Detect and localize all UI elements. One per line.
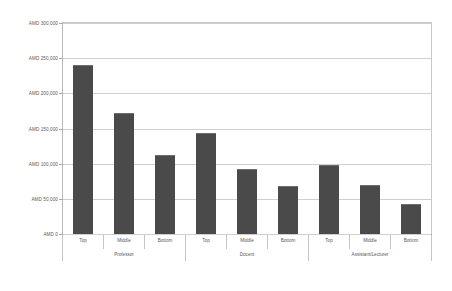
bar[interactable] xyxy=(319,165,339,234)
x-axis-groups: ProfessorDocentAssistant/Lecturer xyxy=(62,249,432,265)
x-axis-category-cell: Bottom xyxy=(391,235,432,249)
x-axis-category-cell: Bottom xyxy=(268,235,309,249)
y-axis-tick-label: AMD 200,000 xyxy=(29,91,63,96)
x-axis-group-cell: Docent xyxy=(186,249,309,261)
bar-slot xyxy=(390,23,431,234)
x-axis-category-label: Bottom xyxy=(268,238,308,243)
x-axis-category-label: Top xyxy=(63,238,103,243)
x-axis-category-cell: Middle xyxy=(350,235,391,249)
bar-series xyxy=(63,23,431,234)
bar[interactable] xyxy=(196,133,216,234)
y-axis-tick-label: AMD 0 xyxy=(43,232,63,237)
bar[interactable] xyxy=(73,65,93,234)
bar[interactable] xyxy=(278,186,298,234)
y-axis-tick-label: AMD 300,000 xyxy=(29,21,63,26)
y-axis-tick-label: AMD 150,000 xyxy=(29,126,63,131)
x-axis-category-cell: Top xyxy=(62,235,104,249)
x-axis-group-label: Docent xyxy=(186,252,308,257)
bar[interactable] xyxy=(155,155,175,234)
x-axis-category-label: Top xyxy=(309,238,349,243)
plot-area: AMD 300,000AMD 250,000AMD 200,000AMD 150… xyxy=(62,22,432,235)
bar-slot xyxy=(267,23,308,234)
x-axis-group-cell: Assistant/Lecturer xyxy=(309,249,432,261)
x-axis-category-label: Bottom xyxy=(391,238,431,243)
x-axis-category-cell: Middle xyxy=(104,235,145,249)
x-axis-group-label: Assistant/Lecturer xyxy=(309,252,431,257)
bar[interactable] xyxy=(237,169,257,234)
x-axis-category-label: Middle xyxy=(350,238,390,243)
bar-slot xyxy=(308,23,349,234)
x-axis-category-cell: Middle xyxy=(227,235,268,249)
bar-slot xyxy=(349,23,390,234)
x-axis-group-cell: Professor xyxy=(62,249,186,261)
x-axis-category-label: Middle xyxy=(227,238,267,243)
x-axis-category-label: Bottom xyxy=(145,238,185,243)
bar-slot xyxy=(145,23,186,234)
x-axis-category-cell: Top xyxy=(186,235,227,249)
bar-slot xyxy=(63,23,104,234)
y-axis-tick-label: AMD 100,000 xyxy=(29,161,63,166)
bar-slot xyxy=(104,23,145,234)
x-axis-category-label: Middle xyxy=(104,238,144,243)
x-axis-category-cell: Bottom xyxy=(145,235,186,249)
bar-chart: AMD 300,000AMD 250,000AMD 200,000AMD 150… xyxy=(0,0,452,291)
bar[interactable] xyxy=(360,185,380,234)
x-axis-category-label: Top xyxy=(186,238,226,243)
bar[interactable] xyxy=(401,204,421,234)
bar-slot xyxy=(186,23,227,234)
y-axis-tick-label: AMD 50,000 xyxy=(31,196,63,201)
x-axis-category-cell: Top xyxy=(309,235,350,249)
x-axis-group-label: Professor xyxy=(63,252,185,257)
bar[interactable] xyxy=(114,113,134,234)
y-axis-tick-label: AMD 250,000 xyxy=(29,56,63,61)
bar-slot xyxy=(227,23,268,234)
